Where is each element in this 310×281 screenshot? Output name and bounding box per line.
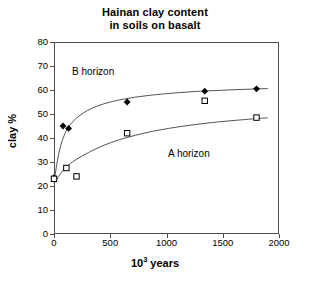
y-axis-tick-label: 80 [24, 37, 48, 47]
y-axis-tick-label: 60 [24, 85, 48, 95]
y-axis-tick-mark [50, 90, 54, 91]
x-axis-tick-mark [110, 234, 111, 238]
y-axis-title: clay % [6, 101, 18, 161]
y-axis-tick-label: 20 [24, 181, 48, 191]
x-axis-tick-label: 1000 [147, 238, 187, 248]
chart-figure: Hainan clay content in soils on basalt 0… [0, 0, 310, 281]
y-axis-tick-mark [50, 138, 54, 139]
x-axis-title: 103 years [0, 255, 310, 269]
y-axis-tick-label: 70 [24, 61, 48, 71]
y-axis-tick-mark [50, 162, 54, 163]
x-axis-tick-mark [54, 234, 55, 238]
y-axis-tick-mark [50, 186, 54, 187]
x-axis-tick-label: 0 [34, 238, 74, 248]
annotation-b-horizon: B horizon [72, 66, 114, 77]
x-axis-title-unit: years [147, 257, 179, 269]
x-axis-tick-mark [279, 234, 280, 238]
y-axis-tick-mark [50, 114, 54, 115]
x-axis-tick-label: 500 [90, 238, 130, 248]
y-axis-tick-mark [50, 42, 54, 43]
y-axis-tick-mark [50, 66, 54, 67]
y-axis-tick-label: 10 [24, 205, 48, 215]
y-axis-tick-label: 40 [24, 133, 48, 143]
x-axis-tick-mark [223, 234, 224, 238]
x-axis-tick-label: 1500 [203, 238, 243, 248]
x-axis-tick-mark [167, 234, 168, 238]
x-axis-title-base: 10 [131, 257, 143, 269]
y-axis-tick-mark [50, 210, 54, 211]
y-axis-tick-label: 30 [24, 157, 48, 167]
y-axis-tick-label: 50 [24, 109, 48, 119]
x-axis-tick-label: 2000 [259, 238, 299, 248]
annotation-a-horizon: A horizon [168, 148, 210, 159]
